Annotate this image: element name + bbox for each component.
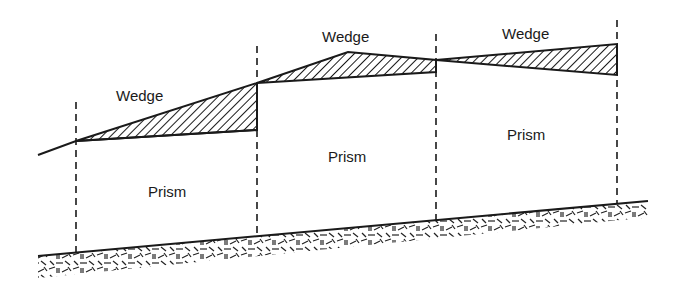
prism-3-label: Prism — [507, 126, 545, 143]
wedge-3-label: Wedge — [502, 25, 549, 42]
wedge-2-hatch — [257, 52, 436, 83]
wedge-prism-diagram: Wedge Wedge Wedge Prism Prism Prism — [0, 0, 680, 291]
prism-2-label: Prism — [328, 148, 366, 165]
wedge-1-label: Wedge — [116, 87, 163, 104]
wedge-2-label: Wedge — [322, 28, 369, 45]
ground-soil-hatch — [38, 201, 648, 278]
ground-line — [38, 201, 648, 256]
prism-1-label: Prism — [148, 183, 186, 200]
wedge-3-hatch — [436, 44, 617, 75]
